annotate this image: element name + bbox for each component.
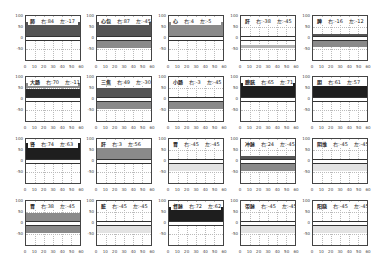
x-tick-label: 0 xyxy=(24,249,27,254)
y-tick-label: 50 xyxy=(11,147,23,152)
y-tick-label: 50 xyxy=(11,209,23,214)
y-tick-label: 50 xyxy=(82,85,94,90)
x-tick-label: 40 xyxy=(347,249,352,254)
panel-right-label: 右:38 xyxy=(41,202,54,210)
x-tick-label: 30 xyxy=(121,187,126,192)
panel-left-label: 左:-12 xyxy=(349,17,364,25)
chart-panel: 100500-50冲脉右:24左:-450102030405060 xyxy=(226,138,298,196)
grid-line xyxy=(97,172,151,173)
x-axis: 0102030405060 xyxy=(25,125,81,131)
y-tick-label: 50 xyxy=(154,85,166,90)
x-tick-label: 10 xyxy=(247,64,252,69)
panel-left-label: 左:-45 xyxy=(133,202,148,210)
x-axis: 0102030405060 xyxy=(240,64,296,70)
y-tick-label: 0 xyxy=(226,35,238,40)
panel-name-label: 脏 xyxy=(101,202,106,210)
panel-title: 胆右:61左:57 xyxy=(315,78,365,86)
plot-area: 肺右:84左:-17 xyxy=(25,15,81,61)
x-tick-label: 50 xyxy=(356,64,361,69)
plot-area: 大肠右:70左:-11 xyxy=(25,76,81,122)
plot-area: 胃右:-45左:-45 xyxy=(168,138,224,184)
y-tick-label: 50 xyxy=(298,24,310,29)
zero-line xyxy=(169,97,223,102)
x-tick-label: 0 xyxy=(95,64,98,69)
x-tick-label: 10 xyxy=(32,125,37,130)
panel-name-label: 胃 xyxy=(173,140,178,148)
x-tick-label: 0 xyxy=(311,187,314,192)
panel-title: 肝右:3左:56 xyxy=(99,140,149,148)
panel-title: 肺右:84左:-17 xyxy=(28,17,78,25)
x-tick-label: 30 xyxy=(337,249,342,254)
zero-line xyxy=(26,36,80,41)
y-tick-label: 0 xyxy=(226,220,238,225)
x-tick-label: 10 xyxy=(319,249,324,254)
panel-right-label: 右:-45 xyxy=(112,202,127,210)
x-axis: 0102030405060 xyxy=(25,187,81,193)
panel-left-label: 左:-45 xyxy=(205,140,220,148)
x-tick-label: 50 xyxy=(69,187,74,192)
y-tick-label: 50 xyxy=(226,24,238,29)
panel-title: 督脉右:72左:62 xyxy=(171,202,221,210)
x-tick-label: 60 xyxy=(365,125,370,130)
y-tick-label: -50 xyxy=(82,231,94,236)
x-tick-label: 20 xyxy=(41,249,46,254)
x-tick-label: 40 xyxy=(60,187,65,192)
chart-panel: 100500-50肾右:74左:630102030405060 xyxy=(11,138,83,196)
zero-line xyxy=(313,36,367,41)
plot-area: 阴维右:-45左:-45 xyxy=(312,138,368,184)
x-tick-label: 30 xyxy=(193,125,198,130)
panel-right-label: 右:49 xyxy=(117,78,130,86)
x-tick-label: 20 xyxy=(328,187,333,192)
y-tick-label: 100 xyxy=(226,198,238,203)
panel-title: 胃右:-45左:-45 xyxy=(171,140,221,148)
x-tick-label: 20 xyxy=(41,64,46,69)
panel-name-label: 肝 xyxy=(101,140,106,148)
panel-left-label: 左:-45 xyxy=(354,140,368,148)
x-tick-label: 20 xyxy=(328,125,333,130)
x-tick-label: 30 xyxy=(50,64,55,69)
x-tick-label: 50 xyxy=(212,187,217,192)
y-tick-label: 0 xyxy=(82,220,94,225)
y-tick-label: 100 xyxy=(11,198,23,203)
y-tick-label: 100 xyxy=(298,74,310,79)
chart-panel: 100500-50脏右:-45左:-450102030405060 xyxy=(82,200,154,258)
x-tick-label: 60 xyxy=(365,187,370,192)
x-tick-label: 0 xyxy=(239,125,242,130)
plot-area: 督脉右:72左:62 xyxy=(168,200,224,246)
x-tick-label: 0 xyxy=(95,187,98,192)
x-tick-label: 30 xyxy=(121,64,126,69)
plot-area: 带脉右:-45左:-45 xyxy=(240,200,296,246)
x-tick-label: 0 xyxy=(95,249,98,254)
y-tick-label: 100 xyxy=(154,136,166,141)
x-tick-label: 0 xyxy=(239,249,242,254)
x-axis: 0102030405060 xyxy=(312,64,368,70)
y-tick-label: 50 xyxy=(298,147,310,152)
x-axis: 0102030405060 xyxy=(240,249,296,255)
x-tick-label: 50 xyxy=(212,64,217,69)
panel-title: 三焦右:49左:-30 xyxy=(99,78,149,86)
x-tick-label: 40 xyxy=(347,125,352,130)
panel-right-label: 右:-16 xyxy=(328,17,343,25)
x-tick-label: 10 xyxy=(175,187,180,192)
y-tick-label: 0 xyxy=(226,96,238,101)
x-tick-label: 50 xyxy=(356,125,361,130)
x-tick-label: 30 xyxy=(193,249,198,254)
panel-right-label: 右:-38 xyxy=(256,17,271,25)
x-tick-label: 40 xyxy=(275,125,280,130)
x-tick-label: 30 xyxy=(265,125,270,130)
chart-panel: 100500-50脾右:-16左:-120102030405060 xyxy=(298,15,370,73)
x-tick-label: 50 xyxy=(69,125,74,130)
plot-area: 阳跷右:-45左:-45 xyxy=(312,200,368,246)
grid-line xyxy=(97,110,151,111)
x-tick-label: 40 xyxy=(60,125,65,130)
x-tick-label: 0 xyxy=(311,125,314,130)
zero-line xyxy=(169,36,223,41)
x-tick-label: 0 xyxy=(24,187,27,192)
x-tick-label: 30 xyxy=(121,249,126,254)
y-tick-label: 50 xyxy=(154,209,166,214)
panel-title: 阳跷右:-45左:-45 xyxy=(315,202,365,210)
panel-left-label: 左:-17 xyxy=(60,17,75,25)
x-tick-label: 10 xyxy=(247,187,252,192)
x-axis: 0102030405060 xyxy=(25,64,81,70)
grid-line xyxy=(313,110,367,111)
